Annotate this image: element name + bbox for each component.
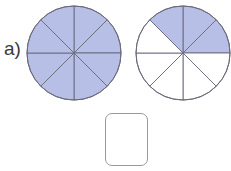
- fraction-circles: [0, 0, 231, 110]
- answer-box[interactable]: [105, 113, 148, 166]
- circle-whole: [27, 6, 121, 100]
- circle-fraction: [136, 6, 230, 100]
